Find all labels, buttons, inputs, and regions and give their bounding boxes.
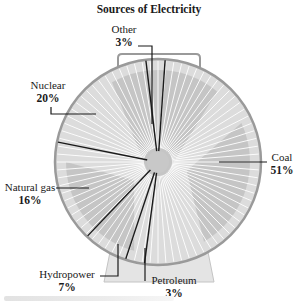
label-hydropower-value: 7% — [34, 281, 100, 294]
label-nuclear: Nuclear 20% — [22, 79, 74, 105]
label-coal-value: 51% — [266, 164, 298, 177]
label-petroleum-name: Petroleum — [151, 274, 196, 286]
label-other-name: Other — [111, 23, 136, 35]
label-natural-gas-name: Natural gas — [5, 181, 55, 193]
label-coal-name: Coal — [272, 151, 293, 163]
label-other-value: 3% — [104, 36, 144, 49]
fan-pie-chart — [0, 0, 298, 306]
label-hydropower-name: Hydropower — [39, 268, 95, 280]
label-other: Other 3% — [104, 23, 144, 49]
label-natural-gas-value: 16% — [0, 194, 60, 207]
label-natural-gas: Natural gas 16% — [0, 181, 60, 207]
label-nuclear-name: Nuclear — [31, 79, 66, 91]
label-nuclear-value: 20% — [22, 92, 74, 105]
label-hydropower: Hydropower 7% — [34, 268, 100, 294]
source-note-illegible — [4, 296, 174, 301]
label-coal: Coal 51% — [266, 151, 298, 177]
fan-hub — [147, 151, 169, 173]
